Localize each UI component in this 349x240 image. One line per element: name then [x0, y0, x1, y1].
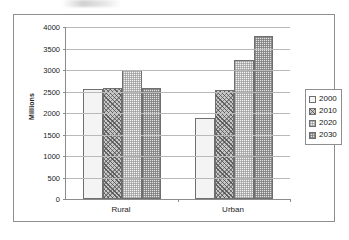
y-axis-tick-label: 3500	[43, 44, 60, 53]
chart-plot-wrapper: Millions 0500100015002000250030003500400…	[14, 15, 334, 221]
scan-artifact	[62, 0, 122, 7]
chart-frame: Millions 0500100015002000250030003500400…	[13, 14, 335, 222]
legend-swatch-icon	[309, 108, 316, 115]
x-axis-category-label: Urban	[222, 205, 244, 214]
bar-rural-2010	[103, 88, 123, 199]
gridline	[66, 156, 290, 157]
gridline	[66, 27, 290, 28]
bar-urban-2030	[254, 36, 274, 199]
gridline	[66, 135, 290, 136]
x-axis-category-labels: RuralUrban	[65, 205, 289, 219]
bar-rural-2000	[83, 89, 103, 199]
x-axis-category-label: Rural	[111, 205, 130, 214]
legend-item-2010: 2010	[309, 105, 337, 117]
legend-item-2030: 2030	[309, 129, 337, 141]
y-axis-tick-label: 3000	[43, 66, 60, 75]
y-axis-tickmark	[63, 156, 66, 157]
bar-urban-2000	[195, 118, 215, 199]
chart-legend: 2000201020202030	[305, 89, 342, 145]
y-axis-tickmark	[63, 199, 66, 200]
y-axis-tickmark	[63, 70, 66, 71]
y-axis-tick-label: 4000	[43, 23, 60, 32]
legend-item-2000: 2000	[309, 93, 337, 105]
gridline	[66, 113, 290, 114]
plot-area	[65, 27, 290, 200]
y-axis-tick-label: 2500	[43, 87, 60, 96]
legend-item-2020: 2020	[309, 117, 337, 129]
y-axis-tickmark	[63, 27, 66, 28]
bar-urban-2010	[215, 90, 235, 199]
x-axis-tickmark	[178, 199, 179, 202]
y-axis-tickmark	[63, 178, 66, 179]
legend-item-label: 2000	[319, 95, 337, 103]
legend-swatch-icon	[309, 132, 316, 139]
y-axis-tick-label: 2000	[43, 109, 60, 118]
legend-swatch-icon	[309, 96, 316, 103]
y-axis-tick-label: 1000	[43, 152, 60, 161]
y-axis-tick-label: 500	[47, 173, 60, 182]
legend-item-label: 2030	[319, 131, 337, 139]
legend-swatch-icon	[309, 120, 316, 127]
y-axis-tickmark	[63, 49, 66, 50]
y-axis-tickmark	[63, 113, 66, 114]
legend-item-label: 2010	[319, 107, 337, 115]
x-axis-tickmark	[290, 199, 291, 202]
y-axis-tickmark	[63, 92, 66, 93]
y-axis-tick-label: 0	[56, 195, 60, 204]
y-axis-tick-labels: 05001000150020002500300035004000	[30, 27, 60, 199]
bar-rural-2030	[142, 88, 162, 199]
legend-item-label: 2020	[319, 119, 337, 127]
gridline	[66, 49, 290, 50]
gridline	[66, 70, 290, 71]
gridline	[66, 92, 290, 93]
y-axis-tick-label: 1500	[43, 130, 60, 139]
gridline	[66, 178, 290, 179]
y-axis-tickmark	[63, 135, 66, 136]
